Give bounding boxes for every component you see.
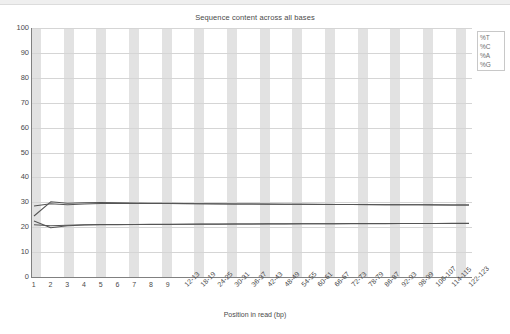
y-axis-tick-label: 80: [3, 74, 29, 82]
x-axis-tick-label: 6: [115, 281, 119, 288]
x-axis-tick-label: 1: [32, 281, 36, 288]
y-axis-tick-label: 40: [3, 173, 29, 181]
x-axis-tick-label: 5: [99, 281, 103, 288]
y-axis-tick-label: 0: [3, 273, 29, 281]
y-axis-tick-label: 30: [3, 198, 29, 206]
x-axis-tick-label: 9: [166, 281, 170, 288]
x-axis-tick-label: 3: [65, 281, 69, 288]
y-axis-tick-label: 60: [3, 124, 29, 132]
plot-area: [31, 28, 472, 277]
series-lines: [31, 28, 472, 277]
y-axis-line: [31, 28, 32, 277]
y-axis-tick-label: 50: [3, 149, 29, 157]
x-axis-title: Position in read (bp): [0, 311, 510, 318]
legend-item-pct-T: %T: [480, 33, 502, 42]
legend-item-pct-C: %C: [480, 42, 502, 51]
x-axis-tick-label: 2: [49, 281, 53, 288]
y-axis-tick-label: 100: [3, 24, 29, 32]
window-chrome-strip: [0, 0, 510, 5]
series-line-pct-A: [34, 204, 469, 206]
series-line-pct-G: [34, 223, 469, 225]
y-axis-ticks: 1009080706050403020100: [0, 28, 29, 277]
y-axis-tick-label: 70: [3, 99, 29, 107]
y-axis-tick-label: 90: [3, 49, 29, 57]
series-svg: [31, 28, 472, 277]
chart-screenshot: Sequence content across all bases 100908…: [0, 0, 510, 334]
y-axis-tick-label: 10: [3, 248, 29, 256]
chart-title: Sequence content across all bases: [0, 13, 510, 22]
x-axis-tick-label: 7: [132, 281, 136, 288]
y-axis-tick-label: 20: [3, 223, 29, 231]
x-axis-tick-label: 8: [149, 281, 153, 288]
chart-legend: %T%C%A%G: [477, 31, 505, 71]
legend-item-pct-G: %G: [480, 60, 502, 69]
x-axis-tick-label: 4: [82, 281, 86, 288]
legend-item-pct-A: %A: [480, 51, 502, 60]
